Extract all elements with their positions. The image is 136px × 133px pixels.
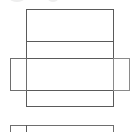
- right-flap-rect: [114, 59, 130, 91]
- box-net-svg: [0, 0, 136, 132]
- left-flap-rect: [11, 59, 27, 91]
- diagram-canvas: [0, 0, 136, 132]
- partial-bottom-shape: [11, 126, 114, 133]
